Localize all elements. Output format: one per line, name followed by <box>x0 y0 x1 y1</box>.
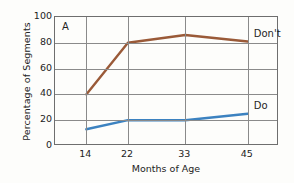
series-label-do: Do <box>254 100 268 111</box>
y-axis-tick-labels: 020406080100 <box>22 0 52 183</box>
series-line-dont <box>86 35 247 94</box>
y-tick-label: 80 <box>24 37 52 47</box>
x-tick-label: 14 <box>65 148 105 159</box>
y-tick-label: 0 <box>24 140 52 150</box>
series-lines <box>55 17 279 146</box>
y-tick-label: 100 <box>24 11 52 21</box>
plot-area: A Don'tDo <box>54 16 278 145</box>
x-gridline <box>185 17 186 144</box>
x-tick-label: 45 <box>227 148 267 159</box>
chart-figure: Percentage of Segments 020406080100 A Do… <box>0 0 294 183</box>
y-tick-label: 20 <box>24 114 52 124</box>
series-label-dont: Don't <box>254 28 281 39</box>
x-tick-label: 22 <box>107 148 147 159</box>
y-gridline <box>55 94 277 95</box>
y-tick-label: 40 <box>24 88 52 98</box>
y-gridline <box>55 43 277 44</box>
series-line-do <box>86 114 247 129</box>
y-gridline <box>55 69 277 70</box>
y-gridline <box>55 120 277 121</box>
y-tick-label: 60 <box>24 63 52 73</box>
x-tick-label: 33 <box>164 148 204 159</box>
x-gridline <box>128 17 129 144</box>
x-axis-title: Months of Age <box>54 163 278 174</box>
x-axis-tick-labels: 14223345 <box>54 148 278 162</box>
x-gridline <box>86 17 87 144</box>
x-gridline <box>248 17 249 144</box>
